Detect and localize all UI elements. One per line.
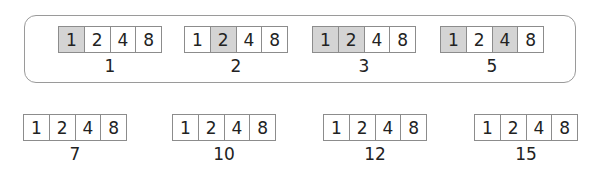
place-value-cell-4[interactable]: 4: [365, 27, 391, 52]
number-label: 1: [58, 56, 162, 76]
number-label: 10: [172, 144, 276, 164]
place-value-cell-2[interactable]: 2: [350, 115, 376, 140]
place-value-cell-4[interactable]: 4: [527, 115, 553, 140]
binary-group-1: 12481: [58, 26, 162, 76]
place-value-cell-4[interactable]: 4: [111, 27, 137, 52]
place-value-cells: 1248: [58, 26, 162, 53]
place-value-cell-8[interactable]: 8: [250, 115, 275, 140]
place-value-cell-8[interactable]: 8: [552, 115, 577, 140]
number-label: 2: [184, 56, 288, 76]
place-value-cell-2[interactable]: 2: [50, 115, 76, 140]
place-value-cell-4[interactable]: 4: [493, 27, 519, 52]
place-value-cell-8[interactable]: 8: [262, 27, 287, 52]
place-value-cell-4[interactable]: 4: [76, 115, 102, 140]
place-value-cell-2[interactable]: 2: [199, 115, 225, 140]
place-value-cell-4[interactable]: 4: [225, 115, 251, 140]
place-value-cell-1[interactable]: 1: [24, 115, 50, 140]
place-value-cells: 1248: [312, 26, 416, 53]
place-value-cell-8[interactable]: 8: [401, 115, 426, 140]
place-value-cell-8[interactable]: 8: [101, 115, 126, 140]
place-value-cell-2[interactable]: 2: [467, 27, 493, 52]
place-value-cells: 1248: [440, 26, 544, 53]
binary-group-2: 12482: [184, 26, 288, 76]
place-value-cell-1[interactable]: 1: [475, 115, 501, 140]
number-label: 12: [323, 144, 427, 164]
binary-group-5: 12485: [440, 26, 544, 76]
number-label: 5: [440, 56, 544, 76]
place-value-cell-8[interactable]: 8: [518, 27, 543, 52]
place-value-cell-8[interactable]: 8: [136, 27, 161, 52]
number-label: 15: [474, 144, 578, 164]
place-value-cells: 1248: [23, 114, 127, 141]
place-value-cell-2[interactable]: 2: [339, 27, 365, 52]
binary-group-7: 12487: [23, 114, 127, 164]
number-label: 3: [312, 56, 416, 76]
binary-group-15: 124815: [474, 114, 578, 164]
place-value-cell-4[interactable]: 4: [237, 27, 263, 52]
place-value-cell-2[interactable]: 2: [85, 27, 111, 52]
place-value-cell-2[interactable]: 2: [501, 115, 527, 140]
binary-group-10: 124810: [172, 114, 276, 164]
binary-group-3: 12483: [312, 26, 416, 76]
place-value-cell-1[interactable]: 1: [441, 27, 467, 52]
place-value-cells: 1248: [172, 114, 276, 141]
place-value-cell-1[interactable]: 1: [313, 27, 339, 52]
binary-group-12: 124812: [323, 114, 427, 164]
place-value-cell-1[interactable]: 1: [324, 115, 350, 140]
place-value-cells: 1248: [184, 26, 288, 53]
number-label: 7: [23, 144, 127, 164]
place-value-cell-4[interactable]: 4: [376, 115, 402, 140]
place-value-cell-1[interactable]: 1: [185, 27, 211, 52]
place-value-cell-8[interactable]: 8: [390, 27, 415, 52]
place-value-cell-1[interactable]: 1: [173, 115, 199, 140]
place-value-cells: 1248: [474, 114, 578, 141]
place-value-cell-1[interactable]: 1: [59, 27, 85, 52]
place-value-cells: 1248: [323, 114, 427, 141]
place-value-cell-2[interactable]: 2: [211, 27, 237, 52]
